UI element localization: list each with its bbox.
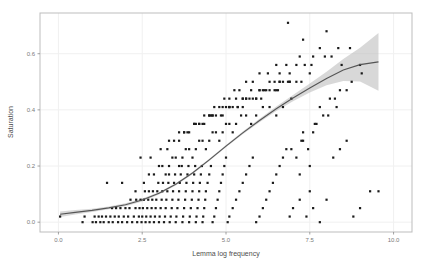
scatter-plot-svg: 0.02.55.07.510.0 0.00.20.40.6 Lemma log … [0, 0, 432, 263]
x-tick-label: 10.0 [388, 237, 400, 243]
y-axis-title: Saturation [7, 106, 14, 138]
x-tick-label: 7.5 [306, 237, 315, 243]
chart-figure: 0.02.55.07.510.0 0.00.20.40.6 Lemma log … [0, 0, 432, 263]
y-tick-label: 0.6 [27, 51, 36, 57]
y-axis-ticks: 0.00.20.40.6 [27, 51, 40, 225]
y-tick-label: 0.4 [27, 107, 36, 113]
x-tick-label: 5.0 [222, 237, 231, 243]
x-axis-ticks: 0.02.55.07.510.0 [54, 232, 400, 243]
x-tick-label: 0.0 [54, 237, 63, 243]
y-tick-label: 0.0 [27, 219, 36, 225]
y-tick-label: 0.2 [27, 163, 36, 169]
x-tick-label: 2.5 [138, 237, 147, 243]
x-axis-title: Lemma log frequency [192, 250, 260, 258]
